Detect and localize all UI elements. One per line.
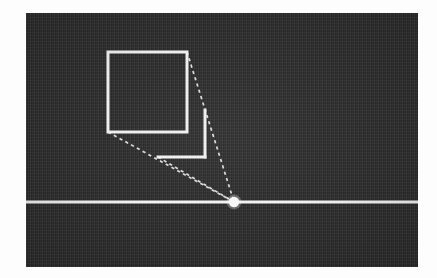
ray-back-bottom-left-line bbox=[158, 157, 234, 202]
scene-plate bbox=[26, 13, 418, 267]
front-square-outline bbox=[108, 52, 187, 132]
front-face-square bbox=[108, 52, 187, 132]
convergence-rays bbox=[108, 52, 234, 202]
vanishing-point-dot bbox=[229, 197, 239, 207]
vanishing-point-marker bbox=[227, 195, 242, 210]
perspective-diagram bbox=[26, 13, 418, 267]
ray-top-right-line bbox=[187, 52, 234, 202]
figure-root bbox=[0, 0, 437, 278]
